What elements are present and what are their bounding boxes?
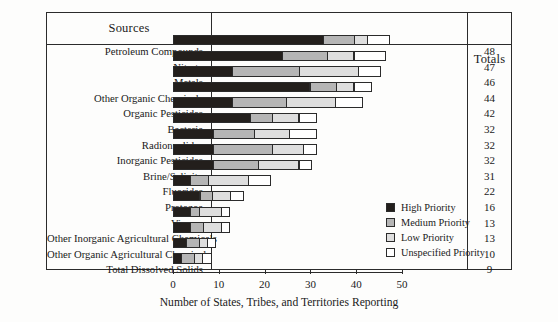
bar-segment-unspecified-priority <box>335 97 362 107</box>
stacked-bar[interactable] <box>173 175 271 185</box>
bar-segment-medium-priority <box>190 222 204 232</box>
bar-segment-low-priority <box>212 191 230 201</box>
stacked-bar[interactable] <box>173 207 230 217</box>
bar-segment-unspecified-priority <box>303 144 317 154</box>
bar-segment-low-priority <box>354 35 368 45</box>
stacked-bar[interactable] <box>173 129 317 139</box>
bar-segment-low-priority <box>203 222 221 232</box>
bar-segment-low-priority <box>254 129 291 139</box>
x-axis: 01020304050 <box>173 272 402 274</box>
stacked-bar[interactable] <box>173 66 381 76</box>
bar-segment-medium-priority <box>181 253 195 263</box>
bar-segment-unspecified-priority <box>358 66 381 76</box>
x-axis-tick <box>265 269 266 274</box>
stacked-bar[interactable] <box>173 113 317 123</box>
bar-segment-unspecified-priority <box>354 51 386 61</box>
bar-segment-medium-priority <box>213 129 254 139</box>
bar-segment-medium-priority <box>282 51 328 61</box>
bar-segment-unspecified-priority <box>367 35 390 45</box>
legend-item[interactable]: High Priority <box>386 200 485 215</box>
x-axis-tick-label: 0 <box>170 278 176 290</box>
legend-swatch-icon <box>386 218 395 227</box>
stacked-bar-plot <box>173 33 402 257</box>
x-axis-tick <box>173 269 174 274</box>
bar-segment-medium-priority <box>213 160 259 170</box>
stacked-bar[interactable] <box>173 222 230 232</box>
total-value: 48 <box>467 44 512 60</box>
bar-row <box>173 127 402 143</box>
stacked-bar[interactable] <box>173 253 212 263</box>
bar-row <box>173 64 402 80</box>
bar-segment-medium-priority <box>232 97 287 107</box>
bar-segment-medium-priority <box>213 144 273 154</box>
bar-segment-high-priority <box>173 175 191 185</box>
total-value: 47 <box>467 60 512 76</box>
bar-row <box>173 189 402 205</box>
x-axis-tick <box>219 269 220 274</box>
total-value: 44 <box>467 91 512 107</box>
bar-segment-unspecified-priority <box>230 191 244 201</box>
x-axis-tick <box>310 269 311 274</box>
bar-segment-high-priority <box>173 97 233 107</box>
legend-swatch-icon <box>386 233 395 242</box>
total-value: 42 <box>467 106 512 122</box>
bar-segment-unspecified-priority <box>221 222 230 232</box>
bar-segment-high-priority <box>173 160 214 170</box>
stacked-bar[interactable] <box>173 144 317 154</box>
bar-segment-low-priority <box>336 82 354 92</box>
stacked-bar[interactable] <box>173 97 363 107</box>
x-axis-tick-label: 20 <box>259 278 270 290</box>
total-value: 22 <box>467 184 512 200</box>
legend-item[interactable]: Unspecified Priority <box>386 245 485 260</box>
bar-row <box>173 205 402 221</box>
bar-segment-high-priority <box>173 238 187 248</box>
x-axis-tick <box>402 269 403 274</box>
bar-row <box>173 236 402 252</box>
bar-segment-low-priority <box>258 160 299 170</box>
legend-swatch-icon <box>386 203 395 212</box>
bar-segment-low-priority <box>272 113 299 123</box>
bar-segment-low-priority <box>208 175 249 185</box>
stacked-bar[interactable] <box>173 82 372 92</box>
bar-row <box>173 80 402 96</box>
bar-segment-unspecified-priority <box>221 207 230 217</box>
x-axis-tick <box>356 269 357 274</box>
bar-segment-high-priority <box>173 113 251 123</box>
bar-row <box>173 142 402 158</box>
bar-segment-medium-priority <box>323 35 355 45</box>
bar-segment-high-priority <box>173 51 283 61</box>
legend-item[interactable]: Low Priority <box>386 230 485 245</box>
legend-item[interactable]: Medium Priority <box>386 215 485 230</box>
bar-segment-medium-priority <box>190 175 208 185</box>
bar-segment-unspecified-priority <box>202 253 211 263</box>
stacked-bar[interactable] <box>173 51 386 61</box>
bar-segment-low-priority <box>327 51 354 61</box>
stacked-bar[interactable] <box>173 160 312 170</box>
bar-segment-unspecified-priority <box>299 113 317 123</box>
bar-segment-medium-priority <box>186 238 200 248</box>
bar-segment-unspecified-priority <box>207 238 216 248</box>
total-value: 32 <box>467 138 512 154</box>
legend-label: High Priority <box>401 202 456 213</box>
stacked-bar[interactable] <box>173 238 216 248</box>
total-value: 32 <box>467 122 512 138</box>
bar-segment-high-priority <box>173 222 191 232</box>
bar-segment-low-priority <box>299 66 359 76</box>
stacked-bar[interactable] <box>173 35 390 45</box>
bar-segment-unspecified-priority <box>289 129 316 139</box>
figure-chart: Sources Totals Petroleum CompoundsNitrat… <box>0 0 558 322</box>
bar-segment-medium-priority <box>310 82 337 92</box>
x-axis-title: Number of States, Tribes, and Territorie… <box>0 296 558 309</box>
bar-segment-low-priority <box>272 144 304 154</box>
x-axis-tick-label: 10 <box>213 278 224 290</box>
bar-segment-low-priority <box>286 97 336 107</box>
bar-row <box>173 49 402 65</box>
bar-segment-medium-priority <box>250 113 273 123</box>
bar-row <box>173 251 402 267</box>
stacked-bar[interactable] <box>173 191 244 201</box>
bar-row <box>173 173 402 189</box>
bar-segment-unspecified-priority <box>354 82 372 92</box>
bar-segment-high-priority <box>173 129 214 139</box>
x-axis-tick-label: 30 <box>305 278 316 290</box>
bar-segment-high-priority <box>173 35 324 45</box>
